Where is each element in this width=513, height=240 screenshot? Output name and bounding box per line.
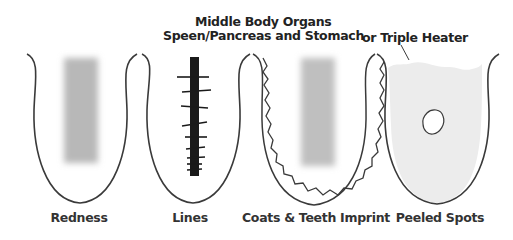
tongue-diagrams bbox=[0, 0, 513, 240]
redness-patch bbox=[64, 58, 98, 163]
coat-patch bbox=[301, 58, 335, 166]
label-peeled-spots: Peeled Spots bbox=[390, 210, 490, 225]
label-redness: Redness bbox=[34, 210, 124, 225]
pointer-line bbox=[401, 45, 409, 60]
tongue-coats-teeth-imprint bbox=[253, 54, 384, 205]
tongue-lines bbox=[142, 54, 250, 203]
tongue-peeled-spots bbox=[377, 45, 499, 204]
label-lines: Lines bbox=[150, 210, 230, 225]
tongue-redness bbox=[27, 54, 137, 203]
label-coats-teeth-imprint: Coats & Teeth Imprint bbox=[242, 210, 382, 225]
